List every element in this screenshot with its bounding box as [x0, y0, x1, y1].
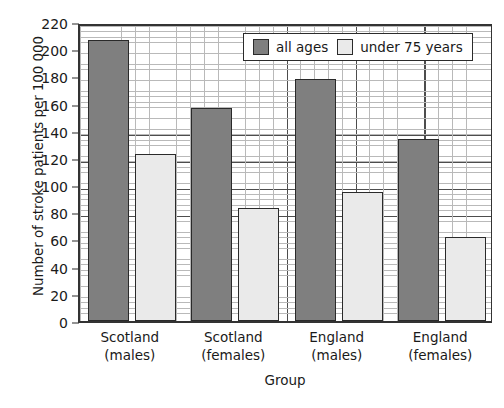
y-tick-label: 20 — [50, 288, 68, 304]
chart-legend: all agesunder 75 years — [243, 33, 473, 61]
bar — [88, 40, 129, 321]
bar — [398, 139, 439, 321]
bar-group — [80, 26, 184, 321]
x-tick-label-line1: England — [413, 329, 468, 345]
bar — [295, 79, 336, 321]
x-tick-label-line1: England — [309, 329, 364, 345]
legend-label: all ages — [276, 39, 328, 55]
x-tick-label-line2: (females) — [389, 346, 493, 364]
y-tick-label: 80 — [50, 206, 68, 222]
bar — [135, 154, 176, 321]
x-tick-label-line2: (males) — [285, 346, 389, 364]
bar-group — [287, 26, 391, 321]
y-tick-label: 120 — [41, 152, 68, 168]
x-tick-label-line1: Scotland — [100, 329, 159, 345]
x-tick-label: Scotland(males) — [78, 328, 182, 364]
x-tick-label-line1: Scotland — [204, 329, 263, 345]
legend-label: under 75 years — [360, 39, 462, 55]
y-tick-label: 0 — [59, 315, 68, 331]
bar-group — [184, 26, 288, 321]
legend-item: all ages — [253, 39, 328, 55]
x-axis-title: Group — [78, 372, 492, 388]
y-tick-label: 60 — [50, 233, 68, 249]
x-tick-label: England(males) — [285, 328, 389, 364]
y-tick-label: 140 — [41, 125, 68, 141]
bars-layer — [80, 26, 491, 321]
bar — [445, 237, 486, 321]
bar-group — [391, 26, 493, 321]
legend-swatch-under-75 — [337, 39, 353, 55]
x-tick-label: England(females) — [389, 328, 493, 364]
y-tick-label: 40 — [50, 261, 68, 277]
y-tick-label: 160 — [41, 98, 68, 114]
y-tick-label: 200 — [41, 43, 68, 59]
bar-chart: Number of stroke patients per 100 000 02… — [0, 0, 504, 408]
y-tick-label: 100 — [41, 179, 68, 195]
x-axis-tick-labels: Scotland(males)Scotland(females)England(… — [78, 328, 492, 370]
legend-swatch-all-ages — [253, 39, 269, 55]
bar — [342, 192, 383, 321]
x-tick-label-line2: (females) — [182, 346, 286, 364]
y-tick-label: 180 — [41, 70, 68, 86]
plot-area — [78, 24, 492, 323]
x-tick-label: Scotland(females) — [182, 328, 286, 364]
bar — [238, 208, 279, 321]
y-axis-ticks: 020406080100120140160180200220 — [26, 17, 72, 323]
x-tick-label-line2: (males) — [78, 346, 182, 364]
bar — [191, 108, 232, 321]
y-tick-label: 220 — [41, 16, 68, 32]
legend-item: under 75 years — [337, 39, 462, 55]
